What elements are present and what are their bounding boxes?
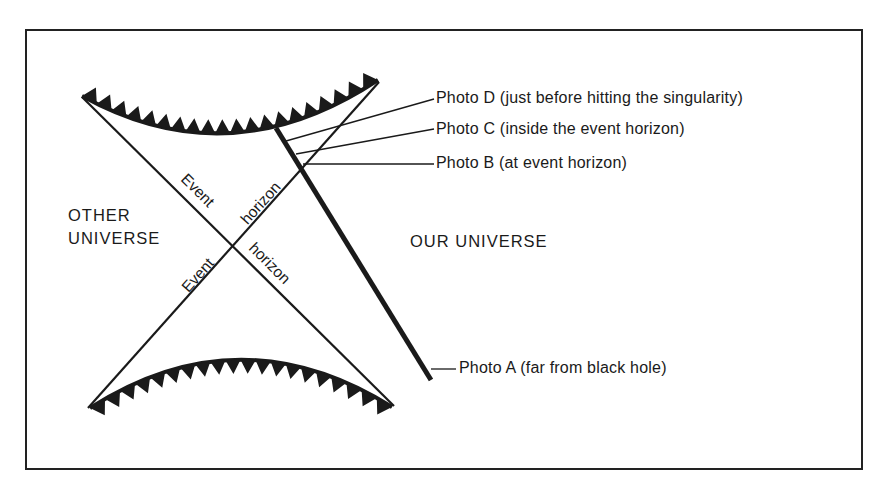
photo-a-label: Photo A (far from black hole) (459, 359, 667, 377)
photo-d-label: Photo D (just before hitting the singula… (436, 89, 743, 107)
other-universe-line-2: UNIVERSE (68, 227, 160, 250)
our-universe-label: OUR UNIVERSE (410, 230, 548, 253)
photo-c-label: Photo C (inside the event horizon) (436, 120, 685, 138)
bottom-singularity (90, 360, 392, 416)
other-universe-label: OTHER UNIVERSE (68, 204, 160, 250)
worldline (276, 128, 431, 380)
top-singularity (82, 73, 378, 133)
other-universe-line-1: OTHER (68, 204, 160, 227)
photo-b-label: Photo B (at event horizon) (436, 154, 627, 172)
